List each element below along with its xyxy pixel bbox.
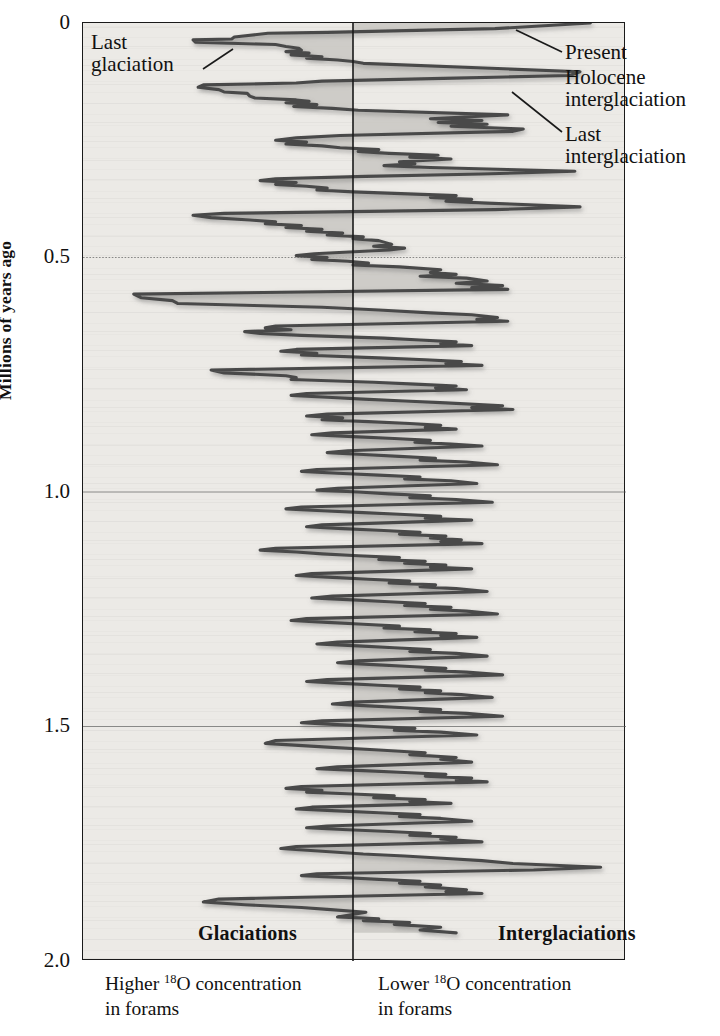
label-glaciations: Glaciations <box>198 922 297 945</box>
isotope-curve-svg <box>83 23 626 961</box>
annotation-leader-lines <box>203 49 233 69</box>
y-tick-1.0: 1.0 <box>44 479 70 504</box>
caption-right-line2: in forams <box>378 997 571 1022</box>
annotation-last-glaciation-line2: glaciation <box>91 53 174 75</box>
caption-left-sup: 18 <box>164 972 176 986</box>
caption-right-post: O concentration <box>446 973 571 994</box>
y-axis-title: Millions of years ago <box>0 100 16 400</box>
y-tick-0: 0 <box>60 10 71 35</box>
caption-right-sup: 18 <box>434 972 446 986</box>
annotation-last-glaciation-line1: Last <box>91 31 174 53</box>
caption-right-line1: Lower 18O concentration <box>378 972 571 997</box>
annotation-holocene-line2: interglaciation <box>565 88 686 110</box>
label-interglaciations: Interglaciations <box>498 922 636 945</box>
annotation-present: Present <box>565 41 627 63</box>
y-tick-0.5: 0.5 <box>44 244 70 269</box>
annotation-last-glaciation: Last glaciation <box>91 31 174 76</box>
annotation-holocene-line1: Holocene <box>565 66 686 88</box>
plot-area: Last glaciation Glaciations Interglaciat… <box>82 22 625 960</box>
caption-left-line2: in forams <box>105 997 302 1022</box>
caption-right-pre: Lower <box>378 973 434 994</box>
caption-left-pre: Higher <box>105 973 164 994</box>
annotation-last-interglaciation: Last interglaciation <box>565 123 686 168</box>
caption-left-line1: Higher 18O concentration <box>105 972 302 997</box>
y-tick-1.5: 1.5 <box>44 713 70 738</box>
caption-left-post: O concentration <box>177 973 302 994</box>
annotation-last-interglaciation-line2: interglaciation <box>565 145 686 167</box>
caption-right: Lower 18O concentration in forams <box>378 972 571 1022</box>
annotation-holocene-interglaciation: Holocene interglaciation <box>565 66 686 111</box>
caption-left: Higher 18O concentration in forams <box>105 972 302 1022</box>
y-tick-2.0: 2.0 <box>44 948 70 973</box>
curve-fill <box>134 23 601 933</box>
annotation-last-interglaciation-line1: Last <box>565 123 686 145</box>
